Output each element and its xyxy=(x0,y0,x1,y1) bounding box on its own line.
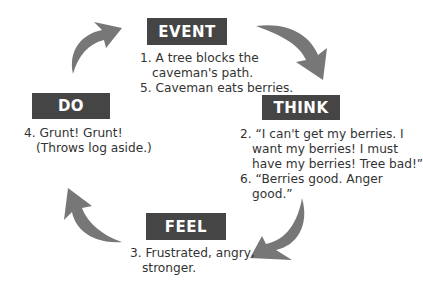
do-line-1: 4. Grunt! Grunt! xyxy=(24,126,152,141)
do-line-2: (Throws log aside.) xyxy=(24,141,152,156)
think-line-5: good.” xyxy=(240,187,423,202)
think-description: 2. “I can't get my berries. I want my be… xyxy=(240,127,423,202)
curved-arrow-icon xyxy=(72,22,122,74)
curved-arrow-icon xyxy=(250,198,304,260)
curved-arrow-icon xyxy=(64,188,122,242)
feel-label: FEEL xyxy=(165,218,207,236)
event-line-1: 1. A tree blocks the xyxy=(140,51,293,66)
think-line-3: have my berries! Tree bad!” xyxy=(240,157,423,172)
think-line-1: 2. “I can't get my berries. I xyxy=(240,127,423,142)
do-description: 4. Grunt! Grunt! (Throws log aside.) xyxy=(24,126,152,156)
event-box: EVENT xyxy=(147,18,227,45)
feel-box: FEEL xyxy=(146,213,226,240)
think-label: THINK xyxy=(273,99,328,117)
event-line-3: 5. Caveman eats berries. xyxy=(140,81,293,96)
think-box: THINK xyxy=(262,95,340,120)
event-line-2: caveman's path. xyxy=(140,66,293,81)
feel-line-2: stronger. xyxy=(130,261,255,276)
feel-description: 3. Frustrated, angry, stronger. xyxy=(130,246,255,276)
feel-line-1: 3. Frustrated, angry, xyxy=(130,246,255,261)
event-label: EVENT xyxy=(158,23,215,41)
do-box: DO xyxy=(32,93,110,119)
do-label: DO xyxy=(58,97,84,115)
think-line-4: 6. “Berries good. Anger xyxy=(240,172,423,187)
think-line-2: want my berries! I must xyxy=(240,142,423,157)
event-description: 1. A tree blocks the caveman's path. 5. … xyxy=(140,51,293,96)
